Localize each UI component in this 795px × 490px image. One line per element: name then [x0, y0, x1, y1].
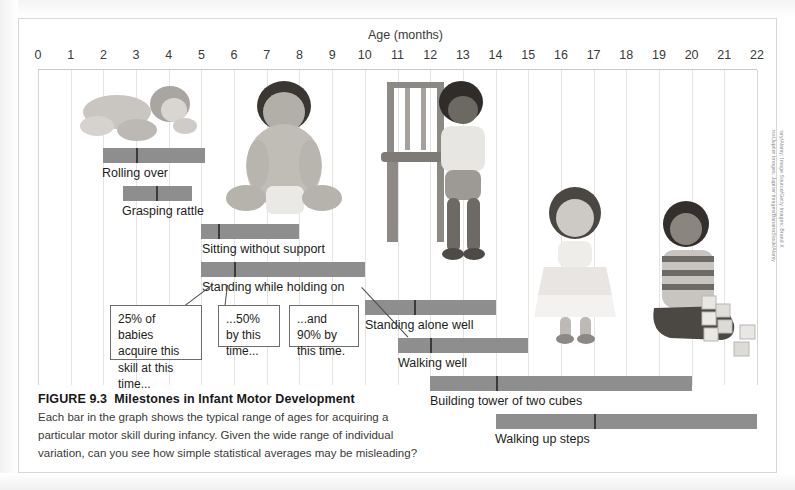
axis-tick-label-9: 9: [317, 48, 347, 62]
gridline-19: [659, 70, 660, 385]
bar-label-sitting-without-support: Sitting without support: [202, 242, 325, 256]
figure-caption: FIGURE 9.3 Milestones in Infant Motor De…: [38, 392, 438, 462]
bar-label-standing-alone-well: Standing alone well: [365, 318, 473, 332]
axis-tick-label-21: 21: [709, 48, 739, 62]
caption-body: Each bar in the graph shows the typical …: [38, 409, 438, 462]
bar-label-rolling-over: Rolling over: [102, 166, 168, 180]
axis-tick-label-13: 13: [448, 48, 478, 62]
bar-label-walking-up-steps: Walking up steps: [495, 432, 590, 446]
bar-walking-up-steps: [496, 414, 757, 429]
bar-grasping-rattle: [123, 186, 192, 201]
axis-tick-label-19: 19: [644, 48, 674, 62]
axis-title: Age (months): [368, 28, 443, 42]
bar-median-tick: [414, 300, 416, 315]
axis-tick-label-8: 8: [284, 48, 314, 62]
axis-tick-label-3: 3: [121, 48, 151, 62]
callout-25-percent: 25% of babies acquire this skill at this…: [110, 305, 202, 360]
gridline-21: [724, 70, 725, 385]
gridline-22: [757, 70, 758, 385]
bar-walking-well: [398, 338, 529, 353]
bar-standing-while-holding-on: [201, 262, 364, 277]
page-edge-bottom: [0, 473, 795, 490]
bar-median-tick: [496, 376, 498, 391]
bar-median-tick: [218, 224, 220, 239]
bar-rolling-over: [103, 148, 204, 163]
axis-tick-label-14: 14: [481, 48, 511, 62]
axis-tick-label-2: 2: [88, 48, 118, 62]
axis-tick-label-11: 11: [383, 48, 413, 62]
figure-screenshot: Age (months) 012345678910111213141516171…: [0, 0, 795, 490]
caption-title: FIGURE 9.3 Milestones in Infant Motor De…: [38, 392, 438, 406]
axis-tick-label-18: 18: [611, 48, 641, 62]
callout-50-percent: ...50% by this time...: [218, 305, 280, 347]
photo-credit-text: (left to right) Bubbles Photolibrary/Ala…: [769, 130, 785, 268]
gridline-15: [528, 70, 529, 385]
bar-building-tower-of-two-cubes: [430, 376, 691, 391]
page-edge-top: [0, 0, 795, 18]
axis-tick-label-16: 16: [546, 48, 576, 62]
axis-tick-label-17: 17: [579, 48, 609, 62]
gridline-16: [561, 70, 562, 385]
axis-tick-label-20: 20: [677, 48, 707, 62]
gridline-17: [594, 70, 595, 385]
gridline-1: [71, 70, 72, 385]
bar-median-tick: [136, 148, 138, 163]
bar-label-grasping-rattle: Grasping rattle: [122, 204, 204, 218]
bar-sitting-without-support: [201, 224, 299, 239]
callout-90-text: ...and 90% by this time.: [297, 312, 345, 358]
axis-tick-label-15: 15: [513, 48, 543, 62]
callout-90-percent: ...and 90% by this time.: [289, 305, 359, 347]
gridline-2: [103, 70, 104, 385]
axis-tick-label-12: 12: [415, 48, 445, 62]
axis-tick-label-0: 0: [23, 48, 53, 62]
gridline-10: [365, 70, 366, 385]
bar-label-walking-well: Walking well: [398, 356, 467, 370]
gridline-20: [692, 70, 693, 385]
bar-median-tick: [430, 338, 432, 353]
callout-50-text: ...50% by this time...: [226, 312, 261, 358]
axis-tick-label-4: 4: [154, 48, 184, 62]
bar-median-tick: [156, 186, 158, 201]
bar-label-building-tower-of-two-cubes: Building tower of two cubes: [430, 394, 582, 408]
bar-label-standing-while-holding-on: Standing while holding on: [202, 280, 344, 294]
bar-median-tick: [234, 262, 236, 277]
bar-median-tick: [594, 414, 596, 429]
axis-tick-label-7: 7: [252, 48, 282, 62]
caption-title-text: Milestones in Infant Motor Development: [114, 392, 355, 406]
axis-tick-label-5: 5: [186, 48, 216, 62]
axis-tick-label-22: 22: [742, 48, 772, 62]
page-edge-left: [0, 0, 18, 490]
axis-tick-label-6: 6: [219, 48, 249, 62]
caption-figure-number: FIGURE 9.3: [38, 392, 107, 406]
gridline-0: [38, 70, 39, 385]
axis-tick-label-10: 10: [350, 48, 380, 62]
gridline-18: [626, 70, 627, 385]
photo-credit-container: (left to right) Bubbles Photolibrary/Ala…: [769, 130, 791, 380]
axis-tick-label-1: 1: [56, 48, 86, 62]
